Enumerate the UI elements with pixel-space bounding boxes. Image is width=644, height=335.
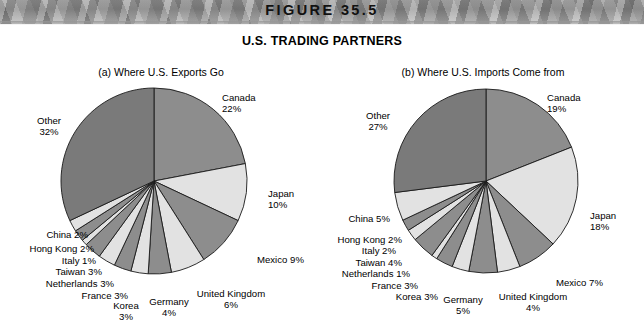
label-germany: Germany4% [143,296,195,318]
label-united-kingdom: United Kingdom4% [486,291,580,313]
label-china: China 5% [322,213,390,224]
label-japan: Japan10% [268,188,294,210]
figure-page: FIGURE 35.5 U.S. TRADING PARTNERS (a) Wh… [0,0,644,335]
label-netherlands: Netherlands 1% [322,268,410,279]
label-other: Other27% [350,110,406,132]
panel-exports: (a) Where U.S. Exports Go Canada22% Japa… [0,0,322,335]
label-italy: Italy 2% [322,245,396,256]
pie-slice-other [394,89,486,193]
label-hong-kong: Hong Kong 2% [322,234,402,245]
panel-imports: (b) Where U.S. Imports Come from Canada1… [322,0,644,335]
label-netherlands: Netherlands 3% [0,278,114,289]
label-france: France 3% [322,280,418,291]
label-canada: Canada19% [547,92,581,114]
label-korea: Korea 3% [322,291,438,302]
label-japan: Japan18% [590,210,616,232]
label-korea: Korea3% [104,300,148,322]
label-united-kingdom: United Kingdom6% [186,288,276,310]
label-china: China 2% [0,229,88,240]
label-canada: Canada22% [222,92,256,114]
label-france: France 3% [0,290,128,301]
label-taiwan: Taiwan 4% [322,257,402,268]
label-other: Other32% [20,115,78,137]
label-mexico: Mexico 7% [556,277,603,288]
label-mexico: Mexico 9% [257,254,304,265]
label-hong-kong: Hong Kong 2% [0,243,94,254]
label-germany: Germany5% [436,294,490,316]
label-italy: Italy 1% [0,255,96,266]
label-taiwan: Taiwan 3% [0,266,102,277]
